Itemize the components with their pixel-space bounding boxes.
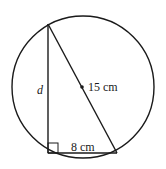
geometry-diagram: d 15 cm 8 cm [0,0,166,169]
label-base: 8 cm [71,140,95,154]
label-hypotenuse: 15 cm [88,80,118,94]
center-point [80,85,84,89]
label-d: d [37,83,44,97]
